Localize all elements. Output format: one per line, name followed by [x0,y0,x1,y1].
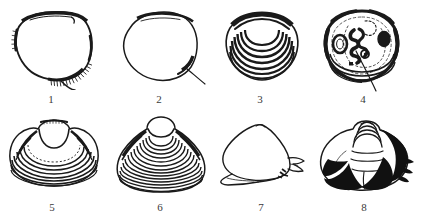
specimen-4-visceral-coil-2 [359,29,367,57]
specimen-4-basal-concentric-lines [329,54,395,83]
specimen-3-figure [222,8,302,88]
specimen-3-concentric-ribs [230,30,294,79]
specimen-1-drawing [8,6,100,90]
specimen-7-label: 7 [251,202,271,213]
specimen-4-anterior-adductor-scar [333,35,347,53]
specimen-1-figure [8,6,100,90]
specimen-5-umbo-top [41,121,67,123]
specimen-5-figure [6,115,102,197]
specimen-2-label: 2 [149,94,169,105]
specimen-3-dorsal-band-inner [235,19,289,29]
specimen-8-figure [316,117,418,199]
specimen-6-umbo-cap [148,129,174,137]
specimen-plate: 1 2 [0,0,429,222]
specimen-2-posterior-spine [186,68,205,84]
specimen-8-body-line-2 [351,159,384,161]
specimen-2-dorsal-inner-line [141,18,180,21]
specimen-8-colour-blotches [323,129,414,190]
specimen-3-drawing [222,8,302,88]
specimen-1-ventral-margin [48,69,83,80]
specimen-1-right-shading [89,36,91,60]
specimen-5-label: 5 [42,202,62,213]
specimen-4-ring-scar-center [364,53,366,55]
specimen-2-drawing [112,6,208,90]
specimen-5-outline [10,120,98,186]
specimen-5-umbo-cavity [39,129,69,148]
specimen-4-blot [349,62,353,66]
specimen-4-umbonal-loop [365,21,376,36]
specimen-3-label: 3 [250,94,270,105]
specimen-6-figure [112,113,210,199]
specimen-4-label: 4 [353,94,373,105]
specimen-4-figure [318,6,406,92]
specimen-7-apex [256,125,265,127]
specimen-8-drawing [316,117,418,199]
specimen-4-left-margin-shading [326,30,328,57]
specimen-2-outline [124,12,197,80]
specimen-8-label: 8 [354,202,374,213]
specimen-7-figure [218,120,308,196]
specimen-8-body-line-1 [352,151,383,153]
specimen-1-umbo-hook [71,17,74,23]
specimen-6-drawing [112,113,210,199]
specimen-1-label: 1 [41,94,61,105]
specimen-5-drawing [6,115,102,197]
specimen-4-right-margin-shading [395,30,397,57]
specimen-1-posterior-spine [61,81,75,90]
specimen-7-outline [223,125,290,181]
specimen-2-dorsal-margin [137,13,193,21]
specimen-5-umbo-hatching [44,120,62,124]
specimen-6-label: 6 [150,202,170,213]
specimen-4-drawing [318,6,406,92]
specimen-7-ventral-margin [258,175,284,182]
specimen-7-drawing [218,120,308,196]
specimen-2-figure [112,6,208,90]
